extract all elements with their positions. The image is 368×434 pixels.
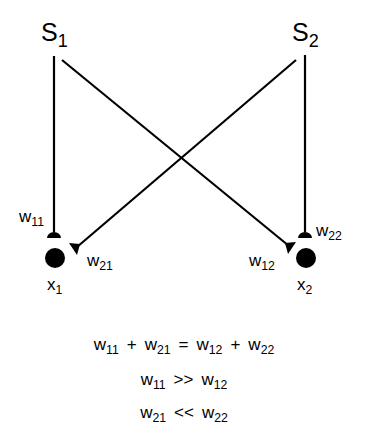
weight-label-w22: w22 (316, 222, 342, 239)
weight-label-w21: w21 (87, 252, 113, 269)
source-s1-sub: 1 (58, 31, 68, 51)
equation-w21-ll-w22: w21<<w22 (0, 404, 368, 421)
neuron-x2-icon (296, 248, 316, 268)
x2-base: x (297, 275, 306, 294)
eq2-sub: 12 (214, 378, 228, 392)
synapse-w21-icon (69, 243, 80, 255)
x2-sub: 2 (306, 283, 313, 297)
equation-sum-equality: w11+w21=w12+w22 (0, 336, 368, 353)
eq1-sub: 21 (157, 343, 171, 357)
eq1-op: + (127, 335, 137, 354)
target-label-x1: x1 (47, 276, 62, 293)
eq1-term: w (94, 335, 106, 354)
eq2-op: >> (174, 370, 194, 389)
w12-base: w (249, 251, 261, 270)
equation-w11-gg-w12: w11>>w12 (0, 371, 368, 388)
eq1-term: w (145, 335, 157, 354)
eq2-sub: 11 (153, 378, 166, 392)
eq3-sub: 22 (214, 411, 228, 425)
weight-label-w11: w11 (19, 208, 44, 225)
eq3-term: w (202, 403, 214, 422)
source-s2-base: S (292, 18, 309, 46)
w22-sub: 22 (328, 229, 342, 243)
x1-base: x (47, 275, 56, 294)
source-label-s1: S1 (41, 20, 68, 45)
weight-label-w12: w12 (249, 252, 275, 269)
eq3-sub: 21 (152, 411, 166, 425)
synapse-w12-icon (285, 242, 296, 254)
eq1-sub: 11 (106, 343, 119, 357)
synapse-w11-icon (47, 232, 61, 238)
source-s1-base: S (41, 18, 58, 46)
connection-s2-x1 (77, 60, 296, 247)
eq1-sub: 22 (261, 343, 275, 357)
eq3-term: w (140, 403, 152, 422)
target-label-x2: x2 (297, 276, 312, 293)
w21-sub: 21 (99, 259, 113, 273)
eq2-term: w (141, 370, 153, 389)
eq3-op: << (174, 403, 194, 422)
eq1-sub: 12 (209, 343, 223, 357)
eq1-op: = (179, 335, 189, 354)
neuron-x1-icon (45, 248, 65, 268)
w11-sub: 11 (31, 215, 44, 229)
eq1-term: w (248, 335, 260, 354)
w11-base: w (19, 207, 31, 226)
connection-diagram (0, 0, 368, 434)
w22-base: w (316, 221, 328, 240)
connection-s1-x2 (62, 60, 289, 246)
eq1-term: w (197, 335, 209, 354)
x1-sub: 1 (56, 283, 63, 297)
source-s2-sub: 2 (309, 31, 319, 51)
synapse-w22-icon (298, 232, 312, 238)
eq2-term: w (201, 370, 213, 389)
eq1-op: + (230, 335, 240, 354)
w12-sub: 12 (261, 259, 275, 273)
w21-base: w (87, 251, 99, 270)
source-label-s2: S2 (292, 20, 319, 45)
